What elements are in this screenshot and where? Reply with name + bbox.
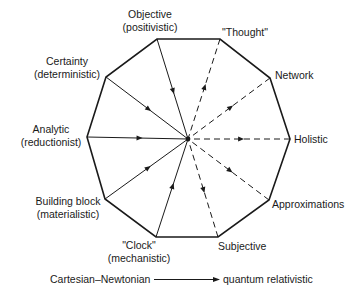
arrowhead-icon-holistic: [238, 136, 244, 141]
vertex-label-line: (mechanistic): [108, 252, 170, 264]
vertex-label-line: Certainty: [46, 55, 89, 67]
vertex-label-certainty: Certainty(deterministic): [34, 55, 100, 80]
vertex-label-analytic: Analytic(reductionist): [21, 123, 82, 148]
legend-to-label: quantum relativistic: [223, 273, 313, 285]
vertex-label-network: Network: [275, 69, 314, 81]
vertex-label-line: "Thought": [222, 26, 268, 38]
vertex-label-line: Objective: [128, 8, 172, 20]
vertex-label-line: (reductionist): [21, 136, 82, 148]
arrowhead-icon-subjective: [200, 186, 205, 192]
vertex-label-clock: "Clock"(mechanistic): [108, 239, 170, 264]
vertex-label-line: "Clock": [122, 239, 156, 251]
arrowhead-icon-thought: [201, 84, 206, 91]
vertex-label-approximations: Approximations: [272, 198, 344, 210]
vertex-label-building_block: Building block(materialistic): [36, 195, 102, 220]
vertex-label-holistic: Holistic: [294, 133, 328, 145]
arrowhead-icon-clock: [169, 183, 174, 190]
arrowhead-icon-approximations: [226, 167, 232, 173]
vertex-labels: Objective(positivistic)"Thought"NetworkH…: [21, 8, 345, 264]
vertex-label-objective: Objective(positivistic): [123, 8, 178, 33]
vertex-label-line: Network: [275, 69, 314, 81]
legend-arrowhead-icon: [213, 277, 220, 282]
legend-from-label: Cartesian–Newtonian: [50, 273, 151, 285]
arrowhead-icon-network: [227, 105, 233, 111]
vertex-label-line: Building block: [36, 195, 102, 207]
paradigm-shift-diagram: Objective(positivistic)"Thought"NetworkH…: [0, 0, 359, 303]
vertex-label-line: Subjective: [218, 240, 267, 252]
vertex-label-line: Analytic: [33, 123, 70, 135]
legend: Cartesian–Newtonian quantum relativistic: [50, 273, 313, 285]
vertex-label-line: Holistic: [294, 133, 328, 145]
arrowhead-icon-analytic: [136, 135, 142, 140]
center-hub: [186, 137, 191, 142]
arrowhead-icon-building_block: [144, 166, 150, 172]
arrowhead-icon-certainty: [145, 105, 151, 111]
vertex-label-line: (deterministic): [34, 68, 100, 80]
vertex-label-line: Approximations: [272, 198, 344, 210]
vertex-label-line: (materialistic): [37, 208, 99, 220]
arrowhead-icon-objective: [170, 87, 175, 94]
vertex-label-thought: "Thought": [222, 26, 268, 38]
vertex-label-subjective: Subjective: [218, 240, 267, 252]
vertex-label-line: (positivistic): [123, 21, 178, 33]
